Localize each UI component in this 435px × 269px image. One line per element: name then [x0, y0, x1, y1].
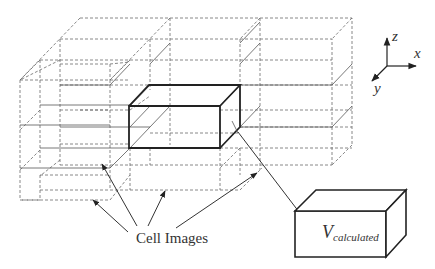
volume-subscript: calculated [333, 231, 379, 243]
volume-symbol: V [322, 222, 333, 242]
cell-image-grid [20, 18, 352, 200]
cell-images-label: Cell Images [136, 230, 208, 247]
cell-image-faces [20, 22, 352, 168]
y-axis-label: y [374, 80, 381, 97]
v-calculated-label: Vcalculated [322, 222, 379, 243]
y-axis-arrow [372, 66, 387, 81]
z-axis-label: z [392, 28, 398, 45]
cell-images-diagram: z x y Cell Images Vcalculated [0, 0, 435, 269]
x-axis-label: x [414, 45, 421, 62]
cell-images-arrows [93, 164, 257, 232]
central-cell [129, 85, 240, 148]
